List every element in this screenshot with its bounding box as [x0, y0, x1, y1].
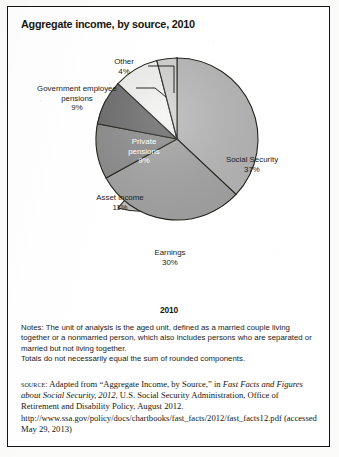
notes-line-2: Totals do not necessarily equal the sum …	[21, 354, 319, 364]
label-asset-income: Asset income 11%	[84, 193, 156, 212]
page-title: Aggregate income, by source, 2010	[21, 18, 195, 30]
source-block: source: Adapted from “Aggregate Income, …	[21, 379, 317, 435]
label-social-security: Social Security 37%	[209, 155, 295, 174]
pie-svg-geometry	[8, 33, 330, 318]
figure-page: Aggregate income, by source, 2010	[0, 0, 339, 457]
label-private-pensions: Private pensions 9%	[113, 137, 175, 166]
figure-frame: Aggregate income, by source, 2010	[7, 6, 330, 447]
source-prefix: source:	[21, 380, 48, 389]
label-other: Other 4%	[96, 57, 152, 76]
notes-block: Notes: The unit of analysis is the aged …	[21, 323, 319, 365]
pie-chart: Other 4% Government employee pensions 9%…	[8, 33, 330, 318]
label-govt-pensions: Government employee pensions 9%	[16, 84, 138, 113]
label-earnings: Earnings 30%	[137, 248, 203, 267]
source-text-a: Adapted from “Aggregate Income, by Sourc…	[48, 379, 223, 389]
chart-year-caption: 2010	[8, 305, 330, 315]
notes-line-1: Notes: The unit of analysis is the aged …	[21, 323, 319, 354]
